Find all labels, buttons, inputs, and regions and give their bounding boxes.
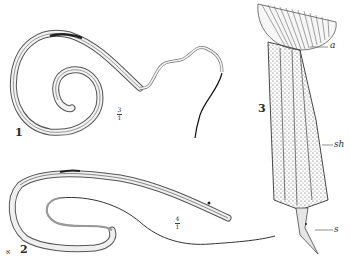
label-s: s	[334, 225, 339, 234]
figure-2-corner-mark: ﬡ	[6, 249, 10, 256]
figure-1-number: 1	[15, 127, 23, 138]
figure-1-scale-denominator: 1	[118, 114, 122, 121]
figure-2-worm	[12, 170, 275, 248]
label-sh: sh	[334, 140, 344, 149]
figure-2-scale-denominator: 1	[176, 223, 180, 230]
figure-1-scale-numerator: 3	[118, 106, 122, 113]
illustration-plate: 1 31 2 41 ﬡ 3 a sh s	[0, 0, 350, 262]
figure-2-scale: 41	[175, 216, 180, 230]
label-a: a	[330, 41, 335, 50]
figure-2-scale-numerator: 4	[176, 215, 180, 222]
figure-2-number: 2	[20, 244, 28, 255]
figure-3-number: 3	[258, 103, 266, 114]
figure-3-organ	[258, 4, 336, 254]
figure-1-scale: 31	[117, 107, 122, 121]
figure-1-worm	[13, 33, 222, 138]
